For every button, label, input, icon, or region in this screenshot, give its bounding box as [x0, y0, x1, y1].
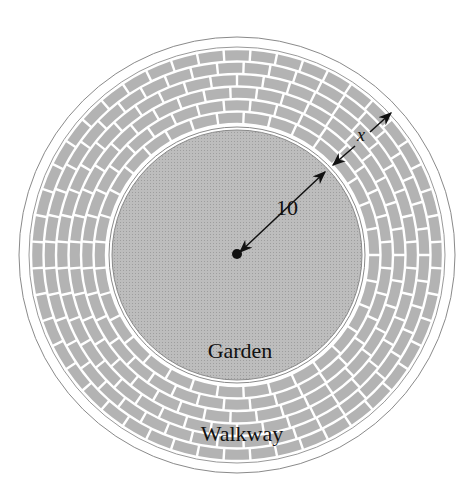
brick [406, 243, 416, 267]
width-label: x [356, 125, 365, 145]
brick [418, 256, 430, 280]
brick [32, 243, 42, 267]
brick [225, 399, 250, 410]
walkway-label: Walkway [201, 421, 284, 446]
brick [418, 229, 430, 253]
brick [218, 113, 243, 124]
brick [381, 243, 392, 268]
brick [218, 63, 242, 74]
brick [95, 243, 106, 268]
brick [232, 88, 256, 99]
brick [431, 243, 441, 267]
radius-label: 10 [276, 195, 298, 220]
brick [82, 243, 93, 268]
brick [225, 100, 250, 111]
brick [225, 449, 249, 459]
garden-walkway-diagram: 10 x Garden Walkway [0, 0, 474, 500]
brick [57, 243, 67, 267]
brick [392, 229, 404, 253]
brick [70, 243, 81, 267]
brick [392, 256, 404, 280]
brick [238, 75, 262, 87]
brick [45, 243, 55, 267]
brick [211, 75, 235, 87]
garden-label: Garden [208, 338, 273, 363]
center-dot [232, 249, 242, 259]
brick [225, 50, 249, 60]
brick [218, 386, 243, 397]
